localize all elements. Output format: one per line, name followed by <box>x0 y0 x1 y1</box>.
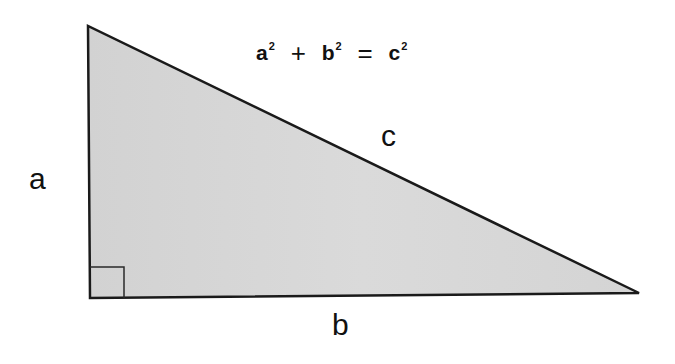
side-label-b: b <box>332 310 349 340</box>
formula-c: c <box>389 41 401 64</box>
formula-b-exponent: 2 <box>336 40 342 52</box>
side-label-a: a <box>29 164 46 194</box>
formula-b: b <box>322 41 335 64</box>
formula-equals: = <box>357 38 372 68</box>
formula-plus: + <box>291 38 306 68</box>
side-label-c: c <box>381 121 396 151</box>
formula-c-exponent: 2 <box>401 40 407 52</box>
formula-a: a <box>256 41 268 64</box>
pythagorean-formula: a2 + b2 = c2 <box>256 38 407 69</box>
formula-a-exponent: 2 <box>269 40 275 52</box>
